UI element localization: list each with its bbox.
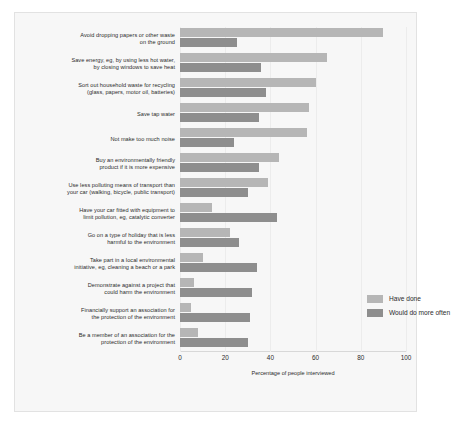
x-tick-label: 60 [312,354,319,361]
legend-label: Would do more often [389,308,450,318]
x-tick-label: 80 [357,354,364,361]
bar-have-done [180,203,212,212]
bar-group [180,128,406,153]
category-label: Have your car fitted with equipment toli… [23,207,175,220]
bar-would-do-more-often [180,138,234,147]
bar-would-do-more-often [180,163,259,172]
legend-label: Have done [389,294,421,304]
category-label-line: product if it is more expensive [23,164,175,171]
category-labels: Avoid dropping papers or other wasteon t… [23,27,175,352]
bar-have-done [180,103,309,112]
bar-would-do-more-often [180,238,239,247]
bar-have-done [180,53,327,62]
category-label-line: by closing windows to save heat [23,64,175,71]
bar-would-do-more-often [180,338,248,347]
category-label-line: Take part in a local environmental [23,257,175,264]
bar-group [180,178,406,203]
category-label: Save energy, eg, by using less hot water… [23,57,175,70]
bar-group [180,103,406,128]
category-label-line: Financially support an association for [23,307,175,314]
category-label: Financially support an association forth… [23,307,175,320]
legend-item: Would do more often [367,308,455,319]
bar-would-do-more-often [180,288,252,297]
bar-have-done [180,128,307,137]
bar-would-do-more-often [180,263,257,272]
category-label-line: initiative, eg, cleaning a beach or a pa… [23,264,175,271]
category-label: Buy an environmentally friendlyproduct i… [23,157,175,170]
bar-group [180,328,406,353]
bar-group [180,153,406,178]
x-axis-label: Percentage of people interviewed [180,370,406,376]
bar-would-do-more-often [180,313,250,322]
category-label-line: Demonstrate against a project that [23,282,175,289]
bar-have-done [180,278,194,287]
chart-legend: Have doneWould do more often [367,294,455,322]
bar-have-done [180,328,198,337]
category-label: Be a member of an association for thepro… [23,332,175,345]
bar-would-do-more-often [180,188,248,197]
bar-have-done [180,178,268,187]
category-label: Take part in a local environmentalinitia… [23,257,175,270]
category-label-line: Save tap water [23,111,175,118]
bar-have-done [180,228,230,237]
category-label-line: Not make too much noise [23,136,175,143]
bar-group [180,203,406,228]
category-label: Go on a type of holiday that is lessharm… [23,232,175,245]
category-label: Sort out household waste for recycling(g… [23,82,175,95]
category-label-line: harmful to the environment [23,239,175,246]
category-label-line: (glass, papers, motor oil, batteries) [23,89,175,96]
category-label-line: Be a member of an association for the [23,332,175,339]
category-label-line: protection of the environment [23,339,175,346]
legend-swatch-icon [367,309,383,317]
bar-group [180,228,406,253]
category-label-line: your car (walking, bicycle, public trans… [23,189,175,196]
bar-group [180,78,406,103]
bar-have-done [180,78,316,87]
bar-group [180,28,406,53]
x-tick-label: 100 [401,354,412,361]
category-label-line: Save energy, eg, by using less hot water… [23,57,175,64]
category-label-line: Avoid dropping papers or other waste [23,32,175,39]
category-label-line: limit pollution, eg, catalytic converter [23,214,175,221]
bar-have-done [180,303,191,312]
category-label-line: Buy an environmentally friendly [23,157,175,164]
legend-item: Have done [367,294,455,305]
category-label-line: Sort out household waste for recycling [23,82,175,89]
x-tick-label: 40 [267,354,274,361]
bar-group [180,253,406,278]
bar-would-do-more-often [180,88,266,97]
category-label-line: Have your car fitted with equipment to [23,207,175,214]
bar-would-do-more-often [180,38,237,47]
category-label: Avoid dropping papers or other wasteon t… [23,32,175,45]
category-label: Demonstrate against a project thatcould … [23,282,175,295]
category-label: Not make too much noise [23,136,175,143]
bar-would-do-more-often [180,213,277,222]
category-label: Save tap water [23,111,175,118]
bar-would-do-more-often [180,63,261,72]
chart-figure: Avoid dropping papers or other wasteon t… [14,12,417,412]
bar-have-done [180,153,279,162]
bar-have-done [180,253,203,262]
bar-would-do-more-often [180,113,259,122]
x-tick-label: 0 [178,354,182,361]
category-label-line: Go on a type of holiday that is less [23,232,175,239]
category-label-line: could harm the environment [23,289,175,296]
bar-have-done [180,28,383,37]
x-axis-ticks: 020406080100 [180,354,406,366]
legend-swatch-icon [367,295,383,303]
category-label-line: Use less polluting means of transport th… [23,182,175,189]
category-label-line: the protection of the environment [23,314,175,321]
category-label-line: on the ground [23,39,175,46]
category-label: Use less polluting means of transport th… [23,182,175,195]
bar-group [180,53,406,78]
x-tick-label: 20 [222,354,229,361]
